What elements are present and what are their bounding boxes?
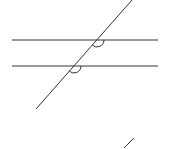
geometry-diagram	[0, 0, 170, 149]
fragment-stroke	[124, 138, 134, 148]
transversal-line	[36, 0, 132, 109]
